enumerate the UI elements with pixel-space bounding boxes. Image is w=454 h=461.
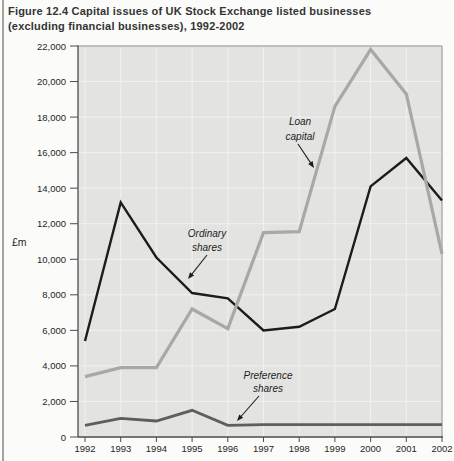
figure-title-line1: Figure 12.4 Capital issues of UK Stock E…: [8, 4, 452, 19]
y-tick-label: 6,000: [42, 325, 66, 336]
y-tick-label: 8,000: [42, 289, 66, 300]
x-tick-label: 1995: [182, 443, 203, 454]
x-tick-label: 1996: [217, 443, 238, 454]
loan-capital-label: capital: [286, 131, 316, 142]
y-tick-label: 0: [61, 432, 66, 443]
preference-shares-label: shares: [253, 383, 283, 394]
x-tick-label: 1998: [289, 443, 310, 454]
y-tick-label: 18,000: [37, 112, 66, 123]
y-tick-label: 12,000: [37, 218, 66, 229]
preference-shares-label: Preference: [244, 370, 293, 381]
y-tick-label: 10,000: [37, 254, 66, 265]
y-tick-label: 14,000: [37, 183, 66, 194]
y-tick-label: 4,000: [42, 360, 66, 371]
x-tick-label: 1993: [110, 443, 131, 454]
y-tick-label: 2,000: [42, 396, 66, 407]
x-tick-label: 1999: [324, 443, 345, 454]
figure-title-line2: (excluding financial businesses), 1992-2…: [8, 19, 452, 34]
x-tick-label: 1992: [74, 443, 95, 454]
x-tick-label: 1997: [253, 443, 274, 454]
x-tick-label: 2000: [360, 443, 381, 454]
x-tick-label: 1994: [146, 443, 167, 454]
y-tick-label: 16,000: [37, 147, 66, 158]
loan-capital-label: Loan: [289, 116, 312, 127]
capital-issues-line-chart: 02,0004,0006,0008,00010,00012,00014,0001…: [0, 40, 454, 461]
x-tick-label: 2002: [431, 443, 452, 454]
ordinary-shares-label: shares: [192, 242, 222, 253]
figure-title: Figure 12.4 Capital issues of UK Stock E…: [8, 4, 452, 34]
y-tick-label: 20,000: [37, 76, 66, 87]
y-axis-unit-label: £m: [12, 236, 27, 248]
chart-area: 02,0004,0006,0008,00010,00012,00014,0001…: [0, 40, 454, 461]
y-tick-label: 22,000: [37, 41, 66, 52]
ordinary-shares-label: Ordinary: [188, 228, 227, 239]
x-tick-label: 2001: [396, 443, 417, 454]
